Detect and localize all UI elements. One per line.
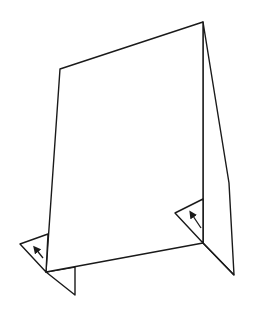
left-flap	[20, 234, 48, 272]
diagram-canvas	[0, 0, 265, 321]
front-panel	[46, 22, 203, 272]
side-panel	[203, 22, 234, 275]
tent-card-diagram	[0, 0, 265, 321]
